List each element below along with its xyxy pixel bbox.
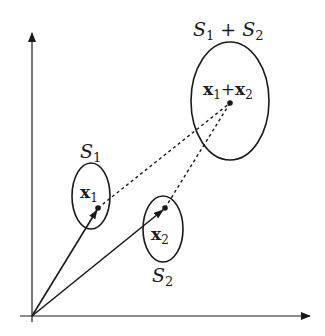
dashed-line-x2-to-sum (165, 103, 230, 208)
label-s1-plus-s2: S1+S2 (193, 18, 264, 43)
point-x1-plus-x2 (227, 100, 233, 106)
set-s2-ellipse (143, 196, 183, 262)
point-x1 (95, 205, 101, 211)
vector-x1 (32, 210, 97, 316)
dashed-line-x1-to-sum (98, 103, 230, 208)
label-s1: S1 (80, 140, 101, 165)
label-x1-plus-x2: x1+x2 (203, 79, 253, 102)
point-x2 (162, 205, 168, 211)
diagram-canvas: S1 S2 S1+S2 x1 x2 x1+x2 (0, 0, 325, 336)
vector-x2 (32, 210, 163, 316)
label-x1: x1 (80, 182, 98, 205)
label-x2: x2 (151, 224, 169, 247)
label-s2: S2 (152, 264, 173, 289)
